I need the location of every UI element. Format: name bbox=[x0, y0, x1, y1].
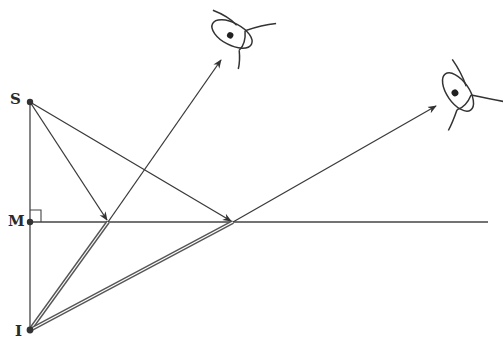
incident-ray-1 bbox=[30, 102, 107, 220]
point-s bbox=[27, 99, 33, 105]
reflection-diagram bbox=[0, 0, 503, 339]
eye-icon bbox=[194, 0, 276, 75]
label-s: S bbox=[10, 90, 21, 108]
virtual-ray-1 bbox=[30, 222, 108, 330]
virtual-ray-2 bbox=[30, 222, 233, 330]
reflected-ray-1 bbox=[108, 60, 221, 222]
eye-icon bbox=[416, 49, 503, 137]
incident-ray-2 bbox=[30, 102, 231, 221]
label-m: M bbox=[8, 212, 25, 230]
label-i: I bbox=[15, 322, 22, 339]
point-m bbox=[27, 219, 33, 225]
point-i bbox=[27, 327, 34, 334]
reflected-ray-2 bbox=[233, 106, 436, 222]
